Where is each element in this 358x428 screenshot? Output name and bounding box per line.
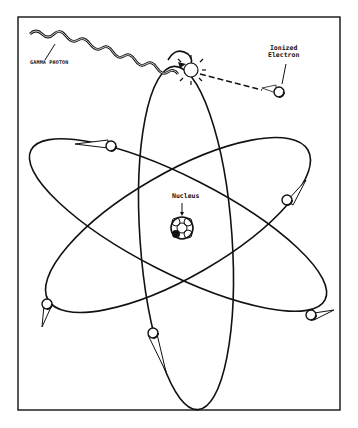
- gamma-photon-label: GAMMA PHOTON: [30, 60, 69, 65]
- electron-3: [42, 299, 52, 327]
- gamma-label-leader: [45, 44, 55, 60]
- frame: [18, 17, 340, 410]
- ionized-electron-path: [200, 74, 262, 90]
- ionized-electron-label: Ionized Electron: [268, 45, 299, 59]
- gamma-photon-wave: [30, 31, 178, 74]
- electron-5: [148, 328, 166, 372]
- nucleus: [171, 203, 193, 239]
- ionized-electron-label-line2: Electron: [268, 52, 299, 59]
- electron-4: [306, 310, 334, 320]
- nucleus-label: Nucleus: [172, 193, 199, 200]
- electron-1: [75, 140, 116, 151]
- ionized-electron: [262, 85, 284, 97]
- ionized-label-leader: [282, 64, 286, 84]
- atom-diagram: GAMMA PHOTON Ionized Electron Nucleus: [0, 0, 358, 428]
- electron-2: [282, 180, 306, 205]
